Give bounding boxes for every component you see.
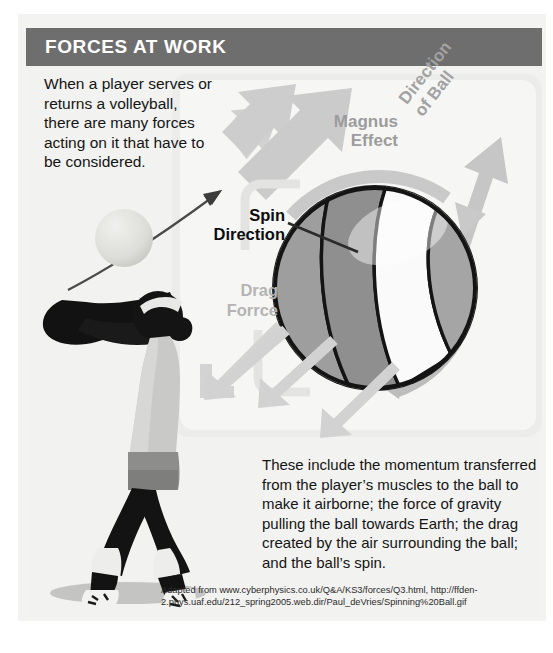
label-magnus-line2: Effect	[351, 131, 398, 150]
intro-paragraph: When a player serves or returns a volley…	[44, 74, 212, 172]
infographic-page: FORCES AT WORK	[0, 0, 553, 653]
label-spin-direction: Spin Direction	[180, 206, 285, 243]
attribution: Adapted from www.cyberphysics.co.uk/Q&A/…	[161, 585, 543, 608]
served-ball-icon	[95, 209, 153, 267]
label-spin-line2: Direction	[213, 225, 285, 243]
label-spin-line1: Spin	[249, 206, 285, 224]
label-drag-line1: Drag	[240, 281, 278, 299]
label-magnus-line1: Magnus	[334, 112, 398, 131]
body-paragraph: These include the momentum transferred f…	[262, 455, 544, 573]
player-silhouette	[43, 291, 206, 611]
label-magnus-effect: Magnus Effect	[300, 112, 398, 150]
label-drag-force: Drag Forrce	[185, 281, 278, 320]
attribution-line1: Adapted from www.cyberphysics.co.uk/Q&A/…	[161, 585, 478, 595]
attribution-line2: 2.phys.uaf.edu/212_spring2005.web.dir/Pa…	[161, 597, 467, 607]
label-drag-line2: Forrce	[227, 301, 278, 319]
